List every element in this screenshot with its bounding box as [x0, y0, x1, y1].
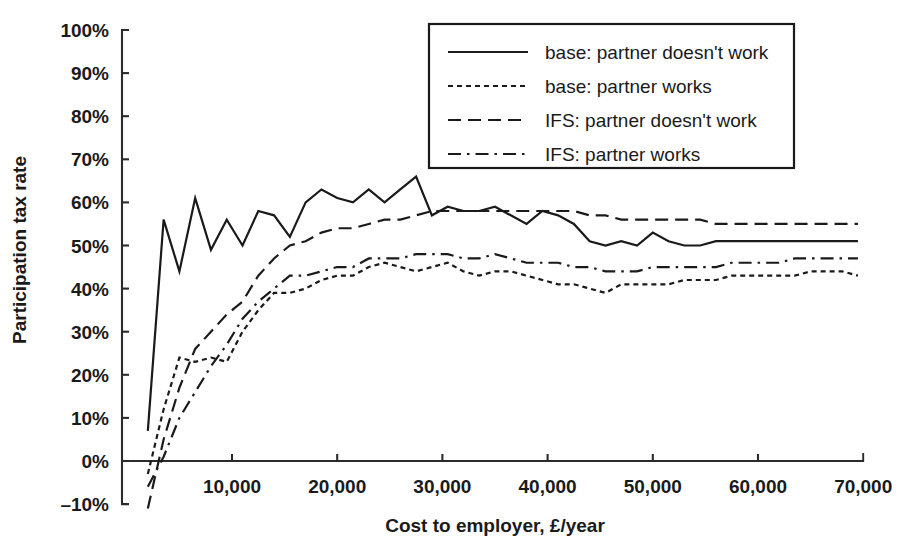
y-tick-label: –10%: [60, 494, 109, 515]
legend-label-3: IFS: partner works: [545, 144, 700, 165]
y-axis-tick-labels: 100%90%80%70%60%50%40%30%20%10%0%–10%: [60, 20, 109, 515]
y-tick-label: 20%: [71, 365, 109, 386]
y-tick-label: 10%: [71, 408, 109, 429]
y-tick-label: 40%: [71, 279, 109, 300]
y-tick-label: 70%: [71, 149, 109, 170]
x-tick-label: 60,000: [729, 476, 787, 497]
series-line-1: [148, 263, 858, 474]
y-tick-label: 30%: [71, 322, 109, 343]
x-tick-label: 40,000: [519, 476, 577, 497]
legend-label-0: base: partner doesn't work: [545, 42, 769, 63]
x-tick-label: 50,000: [624, 476, 682, 497]
chart-series-group: [148, 177, 858, 509]
legend-label-2: IFS: partner doesn't work: [545, 110, 757, 131]
x-tick-label: 10,000: [203, 476, 261, 497]
y-tick-label: 90%: [71, 63, 109, 84]
y-tick-label: 80%: [71, 106, 109, 127]
legend-label-1: base: partner works: [545, 76, 712, 97]
participation-tax-rate-line-chart: 100%90%80%70%60%50%40%30%20%10%0%–10% 10…: [0, 0, 904, 548]
x-axis-title: Cost to employer, £/year: [385, 515, 605, 536]
y-tick-label: 0%: [82, 451, 110, 472]
y-axis-line: [122, 30, 128, 504]
y-tick-label: 60%: [71, 192, 109, 213]
x-tick-label: 20,000: [308, 476, 366, 497]
series-line-0: [148, 177, 858, 431]
x-tick-label: 70,000: [834, 476, 892, 497]
x-axis-zero-line: [122, 454, 863, 461]
series-line-3: [148, 254, 858, 487]
y-tick-label: 50%: [71, 236, 109, 257]
y-tick-label: 100%: [60, 20, 109, 41]
x-axis-tick-labels: 10,00020,00030,00040,00050,00060,00070,0…: [203, 476, 892, 497]
x-axis-ticks: [232, 454, 758, 461]
chart-figure: 100%90%80%70%60%50%40%30%20%10%0%–10% 10…: [0, 0, 904, 548]
chart-legend: base: partner doesn't workbase: partner …: [429, 24, 794, 168]
x-tick-label: 30,000: [413, 476, 471, 497]
y-axis-title: Participation tax rate: [9, 156, 30, 344]
